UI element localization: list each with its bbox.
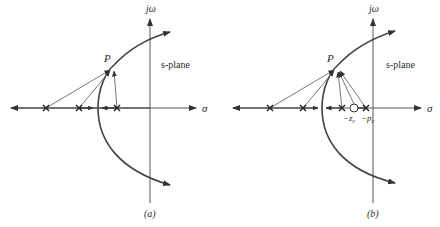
imag-axis-label: jω <box>367 3 379 14</box>
vector-pole3-to-p <box>114 71 117 108</box>
panel-caption-b: (b) <box>367 208 379 220</box>
real-axis-label: σ <box>202 102 208 114</box>
compensator-zero-marker <box>350 104 358 112</box>
real-axis-label: σ <box>427 102 433 114</box>
root-locus-figure: jω σ P s-plane (a) <box>0 0 440 227</box>
vector-pole2-to-p <box>79 71 110 108</box>
locus-upper-branch <box>98 32 170 108</box>
zero-label: −zc <box>343 113 356 124</box>
point-p-label: P <box>103 52 111 64</box>
panel-caption-a: (a) <box>144 208 156 220</box>
point-p-label: P <box>326 52 334 64</box>
locus-upper-branch <box>322 31 395 108</box>
locus-lower-branch <box>98 108 170 185</box>
s-plane-label: s-plane <box>386 59 415 70</box>
panel-b: jω σ P s-plane −zc −pc (b) <box>233 3 433 220</box>
s-plane-label: s-plane <box>161 59 190 70</box>
panel-a: jω σ P s-plane (a) <box>11 3 208 220</box>
imag-axis-label: jω <box>144 3 156 14</box>
svg-text:−zc: −zc <box>343 113 356 124</box>
locus-lower-branch <box>322 108 395 183</box>
vector-pole2-to-p <box>303 71 334 108</box>
